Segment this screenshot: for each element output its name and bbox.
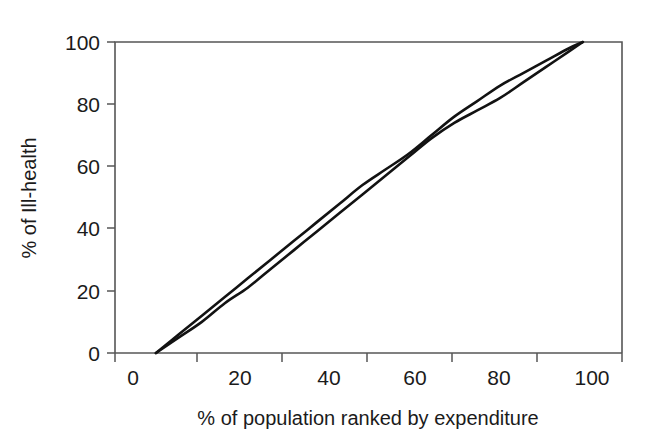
y-tick-label-100: 100	[65, 31, 100, 54]
x-tick-label-40: 40	[317, 366, 340, 389]
x-tick-marks	[115, 353, 622, 362]
plot-frame	[115, 42, 622, 353]
x-tick-labels: 0 20 40 60 80 100	[127, 366, 609, 389]
y-axis-title: % of Ill-health	[18, 137, 40, 258]
y-tick-marks	[107, 42, 115, 353]
y-tick-label-60: 60	[77, 155, 100, 178]
x-tick-label-80: 80	[487, 366, 510, 389]
x-tick-label-0: 0	[127, 366, 139, 389]
y-tick-label-40: 40	[77, 217, 100, 240]
y-tick-label-0: 0	[88, 342, 100, 365]
concentration-curve-lower	[156, 42, 583, 353]
x-axis-title: % of population ranked by expenditure	[197, 407, 538, 429]
axis-left-top-right	[115, 42, 622, 353]
y-tick-label-20: 20	[77, 280, 100, 303]
y-tick-label-80: 80	[77, 93, 100, 116]
x-tick-label-100: 100	[574, 366, 609, 389]
chart-figure: 100 80 60 40 20 0 0 20 40 60 80 100 %	[0, 0, 651, 442]
x-tick-label-20: 20	[228, 366, 251, 389]
x-tick-label-60: 60	[403, 366, 426, 389]
data-series-group	[156, 42, 583, 353]
y-tick-labels: 100 80 60 40 20 0	[65, 31, 100, 365]
chart-svg: 100 80 60 40 20 0 0 20 40 60 80 100 %	[0, 0, 651, 442]
